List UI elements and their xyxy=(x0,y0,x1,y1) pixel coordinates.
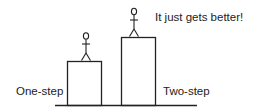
stick-figure-icon xyxy=(82,33,91,61)
two-step-label: Two-step xyxy=(163,86,210,98)
caption-label: It just gets better! xyxy=(155,12,243,24)
one-step-box xyxy=(68,62,102,106)
one-step-label: One-step xyxy=(16,86,63,98)
two-step-box xyxy=(122,38,156,106)
stick-figure-icon xyxy=(130,8,139,36)
